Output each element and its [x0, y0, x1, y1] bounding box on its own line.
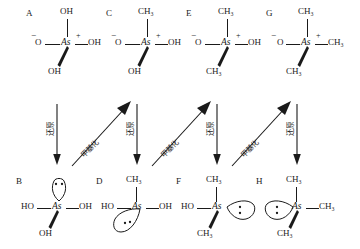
substituent-left-B: HO: [21, 201, 34, 211]
substituent-left-E: O: [195, 37, 202, 47]
bond-right-D: [146, 208, 159, 209]
substituent-top-D: CH₃: [126, 174, 142, 184]
substituent-wedge-B: OH: [39, 228, 52, 238]
structure-label-E: E: [186, 8, 192, 18]
substituent-left-C: O: [115, 37, 122, 47]
arrow-label-reduction-3: 还原: [204, 122, 215, 136]
structure-C: C CH₃ − O As + OH OH: [106, 6, 194, 82]
bond-left-F: [197, 208, 211, 209]
substituent-top-H: CH₃: [286, 174, 302, 184]
substituent-top-G: CH₃: [298, 6, 314, 16]
reaction-scheme-canvas: A OH − O As + OH OH C CH₃ − O As + OH OH…: [0, 0, 360, 249]
structure-E: E CH₃ − O As + OH CH₃: [186, 6, 274, 82]
positive-charge-A: +: [76, 31, 81, 40]
arrow-methylation-2: [150, 100, 212, 168]
substituent-right-G: CH₃: [328, 37, 344, 47]
lone-pair-icon-D: [112, 208, 142, 236]
bond-right-H: [306, 208, 319, 209]
structure-G: G CH₃ − O As + CH₃ CH₃: [266, 6, 354, 82]
substituent-right-H: CH₃: [319, 201, 335, 211]
lone-pair-icon-F: [226, 198, 256, 222]
substituent-right-A: OH: [88, 37, 101, 47]
negative-charge-G: −: [271, 30, 276, 40]
lone-pair-icon-B: [49, 176, 69, 202]
substituent-left-A: O: [35, 37, 42, 47]
positive-charge-E: +: [236, 31, 241, 40]
positive-charge-G: +: [316, 31, 321, 40]
bond-left-G: [286, 44, 300, 45]
substituent-top-F: CH₃: [206, 174, 222, 184]
substituent-wedge-H: CH₃: [277, 228, 293, 238]
bond-right-E: [235, 44, 248, 45]
substituent-right-B: OH: [79, 201, 92, 211]
bond-left-B: [37, 208, 51, 209]
substituent-left-F: HO: [181, 201, 194, 211]
structure-A: A OH − O As + OH OH: [26, 6, 114, 82]
substituent-wedge-G: CH₃: [286, 66, 302, 76]
structure-label-H: H: [256, 176, 263, 186]
substituent-wedge-E: CH₃: [206, 66, 222, 76]
substituent-right-D: OH: [159, 201, 172, 211]
substituent-right-C: OH: [168, 37, 181, 47]
arrow-label-reduction-2: 还原: [124, 122, 135, 136]
arrow-methylation-3: [230, 100, 292, 168]
structure-label-C: C: [106, 8, 112, 18]
bond-top-G: [307, 19, 308, 37]
substituent-top-A: OH: [60, 6, 73, 16]
structure-label-D: D: [96, 176, 103, 186]
structure-label-A: A: [26, 8, 33, 18]
bond-top-F: [216, 187, 217, 202]
arrow-label-reduction-1: 还原: [44, 122, 55, 136]
structure-label-G: G: [266, 8, 273, 18]
structure-label-F: F: [176, 176, 181, 186]
bond-right-B: [66, 208, 79, 209]
bond-top-E: [227, 19, 228, 37]
bond-top-C: [147, 19, 148, 37]
bond-top-D: [136, 187, 137, 202]
structure-label-B: B: [16, 176, 22, 186]
bond-right-A: [75, 44, 88, 45]
arrow-label-reduction-4: 还原: [284, 122, 295, 136]
substituent-left-G: O: [277, 37, 284, 47]
substituent-wedge-F: CH₃: [197, 228, 213, 238]
structure-D: D CH₃ HO As OH: [96, 176, 184, 249]
substituent-top-E: CH₃: [218, 6, 234, 16]
bond-left-A: [45, 44, 60, 45]
bond-right-G: [315, 44, 328, 45]
bond-right-C: [155, 44, 168, 45]
bond-top-A: [67, 19, 68, 37]
bond-top-H: [296, 187, 297, 202]
substituent-wedge-C: OH: [128, 66, 141, 76]
substituent-top-C: CH₃: [138, 6, 154, 16]
bond-left-E: [205, 44, 220, 45]
positive-charge-C: +: [156, 31, 161, 40]
structure-B: B HO As OH OH: [16, 176, 104, 249]
arrow-methylation-1: [70, 100, 132, 168]
substituent-wedge-A: OH: [48, 66, 61, 76]
structure-F: F CH₃ HO As CH₃: [176, 176, 264, 249]
substituent-right-E: OH: [248, 37, 261, 47]
bond-left-C: [125, 44, 140, 45]
structure-H: H CH₃ As CH₃ CH₃: [256, 176, 344, 249]
